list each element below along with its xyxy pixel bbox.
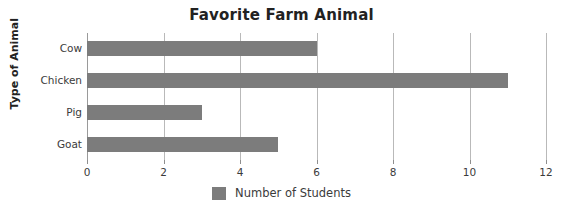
y-axis-tick-labels: Cow Chicken Pig Goat <box>0 33 82 160</box>
bar-pig <box>87 105 202 120</box>
bar-goat <box>87 137 278 152</box>
y-tick-label-cow: Cow <box>2 41 82 56</box>
gridline-8 <box>393 33 394 160</box>
gridline-12 <box>546 33 547 160</box>
y-tick-label-goat: Goat <box>2 137 82 152</box>
x-tickmark-4 <box>240 160 241 164</box>
chart-title: Favorite Farm Animal <box>0 6 563 24</box>
x-tickmark-6 <box>317 160 318 164</box>
gridline-10 <box>470 33 471 160</box>
legend-swatch-number-of-students <box>212 187 226 200</box>
x-tickmark-12 <box>546 160 547 164</box>
x-tick-label-6: 6 <box>297 166 337 178</box>
x-tick-label-12: 12 <box>526 166 563 178</box>
y-tick-label-pig: Pig <box>2 105 82 120</box>
x-tickmark-2 <box>164 160 165 164</box>
y-tick-label-chicken: Chicken <box>2 73 82 88</box>
x-tick-label-0: 0 <box>67 166 107 178</box>
bar-chart: Favorite Farm Animal Type of Animal Cow … <box>0 0 563 210</box>
x-axis-ticks: 024681012 <box>87 160 546 184</box>
x-tickmark-8 <box>393 160 394 164</box>
bar-chicken <box>87 73 508 88</box>
x-tick-label-10: 10 <box>450 166 490 178</box>
chart-legend: Number of Students <box>0 186 563 200</box>
x-tick-label-2: 2 <box>144 166 184 178</box>
legend-label-number-of-students: Number of Students <box>235 186 351 200</box>
plot-area <box>87 33 546 160</box>
bar-cow <box>87 41 317 56</box>
x-tickmark-0 <box>87 160 88 164</box>
gridline-6 <box>317 33 318 160</box>
x-tick-label-8: 8 <box>373 166 413 178</box>
x-tick-label-4: 4 <box>220 166 260 178</box>
x-tickmark-10 <box>470 160 471 164</box>
